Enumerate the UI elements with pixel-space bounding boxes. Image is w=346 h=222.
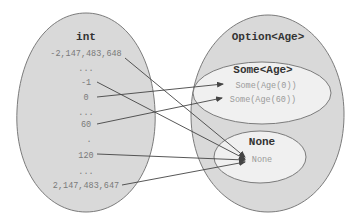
int-ellipsis-2: ... <box>78 108 93 118</box>
int-value-zero: 0 <box>83 93 88 103</box>
int-value-neg-one: -1 <box>81 78 91 88</box>
some-subset-title: Some<Age> <box>233 64 293 76</box>
none-value: None <box>252 155 272 165</box>
some-value-age0: Some(Age(0)) <box>235 81 296 91</box>
int-value-sixty: 60 <box>81 120 91 130</box>
none-subset-title: None <box>249 136 276 148</box>
int-value-one-twenty: 120 <box>78 151 93 161</box>
int-ellipsis-4: ... <box>78 167 93 177</box>
some-value-age60: Some(Age(60)) <box>230 95 296 105</box>
int-value-min: -2,147,483,648 <box>50 49 121 59</box>
int-value-max: 2,147,483,647 <box>53 181 119 191</box>
int-ellipsis-3: . <box>86 135 91 145</box>
int-set-title: int <box>76 31 96 43</box>
int-ellipsis-1: ... <box>78 64 93 74</box>
mapping-diagram: int -2,147,483,648 ... -1 0 ... 60 . 120… <box>0 0 346 222</box>
option-set-title: Option<Age> <box>232 31 305 43</box>
